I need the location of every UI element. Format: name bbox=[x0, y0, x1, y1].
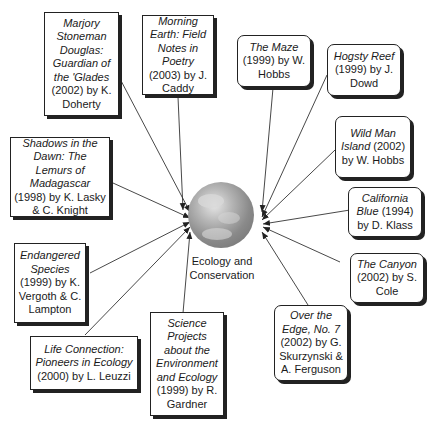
center-label-line2: Conservation bbox=[184, 268, 260, 282]
node-over-the-edge: Over the Edge, No. 7 (2002) by G. Skurzy… bbox=[274, 305, 348, 381]
node-the-canyon: The Canyon (2002) by S. Cole bbox=[350, 253, 424, 303]
book-title: Over the Edge, No. 7 bbox=[282, 309, 340, 335]
book-title: Marjory Stoneman Douglas: Guardian of th… bbox=[53, 17, 110, 83]
node-life-connection: Life Connection: Pioneers in Ecology (20… bbox=[30, 336, 138, 390]
node-wild-man-island: Wild Man Island (2002) by W. Hobbs bbox=[335, 116, 411, 178]
book-details: (2002) by G. Skurzynski & A. Ferguson bbox=[279, 336, 343, 375]
book-title: Life Connection: Pioneers in Ecology bbox=[35, 343, 132, 369]
node-hogsty-reef: Hogsty Reef (1999) by J. Dowd bbox=[327, 44, 401, 96]
center-label-line1: Ecology and bbox=[184, 254, 260, 268]
book-title: Science Projects about the Environment a… bbox=[156, 317, 218, 383]
node-the-maze: The Maze (1999) by W. Hobbs bbox=[237, 35, 311, 87]
node-science-projects: Science Projects about the Environment a… bbox=[150, 312, 224, 416]
book-details: (1999) by R. Gardner bbox=[157, 384, 218, 410]
book-details: (2000) by L. Leuzzi bbox=[37, 370, 131, 382]
book-title: Hogsty Reef bbox=[334, 50, 395, 62]
book-title: Endangered Species bbox=[20, 249, 80, 275]
globe-icon bbox=[188, 182, 254, 248]
book-details: (1998) by K. Lasky & C. Knight bbox=[14, 191, 106, 217]
book-details: (2002) by S. Cole bbox=[357, 271, 417, 297]
book-title: Shadows in the Dawn: The Lemurs of Madag… bbox=[22, 137, 97, 190]
book-details: (1999) by K. Vergoth & C. Lampton bbox=[19, 276, 81, 315]
node-california-blue: California Blue (1994) by D. Klass bbox=[348, 187, 422, 237]
node-marjory-stoneman-douglas: Marjory Stoneman Douglas: Guardian of th… bbox=[44, 12, 119, 116]
book-details: (2002) by K. Doherty bbox=[52, 84, 112, 110]
center-topic-label: Ecology and Conservation bbox=[184, 254, 260, 282]
book-title: The Maze bbox=[250, 41, 299, 53]
node-shadows-in-the-dawn: Shadows in the Dawn: The Lemurs of Madag… bbox=[10, 137, 110, 217]
book-details: (2003) by J. Caddy bbox=[149, 69, 207, 95]
book-details: (1999) by W. Hobbs bbox=[243, 54, 305, 80]
node-morning-earth: Morning Earth: Field Notes in Poetry (20… bbox=[142, 15, 214, 95]
book-title: The Canyon bbox=[357, 258, 417, 270]
node-endangered-species: Endangered Species (1999) by K. Vergoth … bbox=[14, 243, 86, 323]
book-details: (1999) by J. Dowd bbox=[335, 63, 393, 89]
book-title: Morning Earth: Field Notes in Poetry bbox=[150, 15, 206, 68]
